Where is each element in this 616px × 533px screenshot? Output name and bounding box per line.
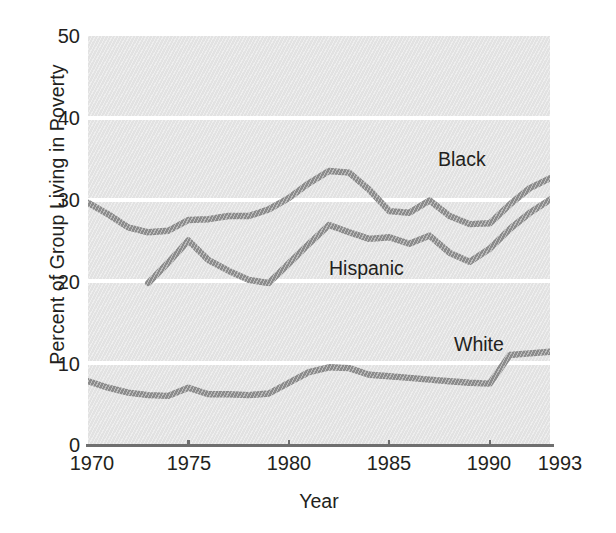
series-line-black	[88, 171, 550, 232]
x-tick-label-1993: 1993	[520, 452, 600, 474]
series-label-white: White	[454, 334, 504, 354]
series-plot-canvas	[88, 36, 550, 445]
poverty-by-group-line-chart: Percent of Group Living in Poverty 50 40…	[0, 0, 616, 533]
x-tick-label-1990: 1990	[449, 452, 529, 474]
series-line-white	[88, 352, 550, 396]
plot-area: Black Hispanic White	[88, 36, 550, 445]
series-label-hispanic: Hispanic	[329, 258, 404, 278]
y-tick-label-20: 20	[18, 272, 80, 292]
x-tick-label-1970: 1970	[52, 452, 132, 474]
y-tick-label-30: 30	[18, 190, 80, 210]
x-axis-ticks	[188, 440, 489, 445]
y-tick-label-50: 50	[18, 26, 80, 46]
series-label-black: Black	[438, 149, 486, 169]
y-tick-label-40: 40	[18, 108, 80, 128]
x-axis-title: Year	[88, 490, 550, 513]
x-tick-label-1985: 1985	[349, 452, 429, 474]
x-tick-label-1980: 1980	[249, 452, 329, 474]
y-tick-label-10: 10	[18, 354, 80, 374]
x-axis-tick-labels: 1970 1975 1980 1985 1990 1993	[0, 452, 616, 482]
x-tick-label-1975: 1975	[149, 452, 229, 474]
